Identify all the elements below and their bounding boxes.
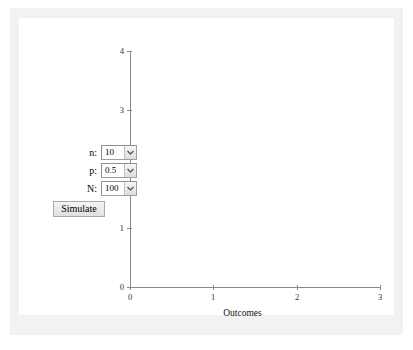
y-tick-mark bbox=[127, 51, 132, 52]
select-p-value: 0.5 bbox=[102, 164, 116, 177]
applet-panel: 4 3 2 1 0 0 1 2 3 Outcomes n: 10 bbox=[19, 18, 394, 315]
x-axis-title: Outcomes bbox=[19, 308, 394, 318]
controls-panel: n: 10 p: 0.5 N: bbox=[49, 144, 137, 217]
x-tick-label: 2 bbox=[289, 293, 305, 302]
simulate-button[interactable]: Simulate bbox=[53, 201, 105, 217]
control-row-N: N: 100 bbox=[49, 180, 137, 197]
y-tick-label: 4 bbox=[110, 47, 124, 56]
control-row-n: n: 10 bbox=[49, 144, 137, 161]
x-tick-label: 3 bbox=[372, 293, 388, 302]
chevron-down-icon[interactable] bbox=[124, 146, 136, 159]
x-tick-mark bbox=[130, 285, 131, 290]
y-tick-label: 1 bbox=[110, 224, 124, 233]
chevron-down-icon[interactable] bbox=[124, 182, 136, 195]
y-tick-mark bbox=[127, 287, 132, 288]
label-N: N: bbox=[87, 180, 97, 197]
select-n-value: 10 bbox=[102, 146, 114, 159]
select-n[interactable]: 10 bbox=[101, 145, 137, 160]
chevron-down-icon[interactable] bbox=[124, 164, 136, 177]
select-N[interactable]: 100 bbox=[101, 181, 137, 196]
control-row-p: p: 0.5 bbox=[49, 162, 137, 179]
label-p: p: bbox=[89, 162, 97, 179]
y-tick-label: 3 bbox=[110, 106, 124, 115]
select-p[interactable]: 0.5 bbox=[101, 163, 137, 178]
x-tick-mark bbox=[297, 285, 298, 290]
application-frame: 4 3 2 1 0 0 1 2 3 Outcomes n: 10 bbox=[10, 8, 403, 335]
x-tick-mark bbox=[380, 285, 381, 290]
y-tick-label: 0 bbox=[110, 283, 124, 292]
y-tick-mark bbox=[127, 228, 132, 229]
label-n: n: bbox=[89, 144, 97, 161]
x-tick-label: 1 bbox=[205, 293, 221, 302]
x-tick-mark bbox=[213, 285, 214, 290]
select-N-value: 100 bbox=[102, 182, 119, 195]
y-tick-mark bbox=[127, 110, 132, 111]
x-tick-label: 0 bbox=[122, 293, 138, 302]
x-axis-line bbox=[130, 287, 381, 288]
